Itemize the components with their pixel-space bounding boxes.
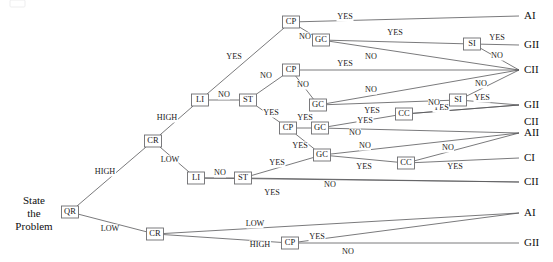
tree-node-cr[interactable]: CR: [145, 135, 162, 147]
tree-node-gc[interactable]: GC: [314, 149, 331, 161]
edge-label: HIGH: [157, 113, 178, 122]
edge-label: NO: [365, 85, 377, 94]
edge-label: YES: [447, 162, 463, 171]
node-label: ST: [243, 94, 254, 104]
node-label: SI: [468, 38, 476, 48]
outcome-label-gii: GII: [524, 236, 540, 248]
edge-label: NO: [365, 52, 377, 61]
node-label: LI: [192, 172, 200, 182]
node-label: GC: [312, 99, 324, 109]
edge-label: NO: [475, 79, 487, 88]
node-label: CP: [283, 122, 294, 132]
tree-node-cp[interactable]: CP: [280, 122, 297, 134]
edge-label: NO: [428, 98, 440, 107]
node-label: SI: [454, 94, 462, 104]
edge-label: YES: [297, 113, 313, 122]
edge-label: NO: [442, 143, 454, 152]
edge-label: YES: [309, 232, 325, 241]
tree-node-li[interactable]: LI: [188, 172, 205, 184]
edge-label: YES: [269, 158, 285, 167]
edge-label: YES: [474, 93, 490, 102]
tree-node-qr[interactable]: QR: [62, 206, 79, 218]
edge-label: YES: [337, 12, 353, 21]
node-label: CC: [398, 108, 410, 118]
tree-node-si[interactable]: SI: [450, 94, 467, 106]
edge-label: YES: [357, 116, 373, 125]
tree-node-st[interactable]: ST: [235, 172, 252, 184]
edge-label: YES: [226, 52, 242, 61]
tree-node-cc[interactable]: CC: [396, 108, 413, 120]
edge-label: YES: [264, 188, 280, 197]
root-label-line-1: State: [23, 194, 45, 206]
edge-label: YES: [489, 33, 505, 42]
outcome-label-ci: CI: [524, 151, 535, 163]
edge-label: LOW: [246, 219, 265, 228]
outcome-label-cii: CII: [524, 63, 539, 75]
tree-node-cp[interactable]: CP: [283, 16, 300, 28]
decision-tree-page: HIGHLOWHIGHLOWNOYESNOYESYESNOYESNOYESNOY…: [0, 0, 553, 262]
outcome-label-cii: CII: [524, 175, 539, 187]
node-label: GC: [315, 34, 327, 44]
edge-label: NO: [491, 51, 503, 60]
edge-label: YES: [387, 28, 403, 37]
tree-node-gc[interactable]: GC: [310, 99, 327, 111]
outcome-label-gii: GII: [524, 38, 540, 50]
node-label: CP: [285, 237, 296, 247]
edge-label: NO: [324, 180, 336, 189]
node-label: CC: [400, 157, 412, 167]
decision-tree-svg: HIGHLOWHIGHLOWNOYESNOYESYESNOYESNOYESNOY…: [0, 0, 553, 262]
outcome-label-ai: AI: [524, 9, 536, 21]
node-label: ST: [238, 172, 249, 182]
edge-label: YES: [356, 162, 372, 171]
tree-node-cc[interactable]: CC: [398, 157, 415, 169]
tree-node-st[interactable]: ST: [240, 94, 257, 106]
node-label: CP: [286, 16, 297, 26]
tree-node-gc[interactable]: GC: [313, 34, 330, 46]
edge-label: NO: [299, 32, 311, 41]
tree-node-gc[interactable]: GC: [312, 122, 329, 134]
edge-label: HIGH: [250, 240, 271, 249]
node-label: GC: [316, 149, 328, 159]
node-label: CP: [286, 64, 297, 74]
edge-label: YES: [337, 59, 353, 68]
node-label: QR: [64, 206, 76, 216]
node-label: CR: [149, 228, 161, 238]
root-label-line-3: Problem: [15, 220, 53, 232]
tree-node-cr[interactable]: CR: [147, 228, 164, 240]
outcome-label-ai: AI: [524, 206, 536, 218]
outcome-label-gii: GII: [524, 98, 540, 110]
root-label-line-2: the: [27, 207, 41, 219]
edge-label: NO: [218, 90, 230, 99]
tree-node-si[interactable]: SI: [464, 38, 481, 50]
edge-label: LOW: [101, 224, 120, 233]
tree-node-cp[interactable]: CP: [283, 64, 300, 76]
edge-label: NO: [359, 141, 371, 150]
tree-node-cp[interactable]: CP: [282, 237, 299, 249]
edge-label: YES: [292, 141, 308, 150]
node-label: LI: [196, 94, 204, 104]
node-label: CR: [147, 135, 159, 145]
edge-label: NO: [214, 168, 226, 177]
tree-node-li[interactable]: LI: [192, 94, 209, 106]
outcome-label-aii: AII: [524, 126, 540, 138]
edge-label: NO: [260, 71, 272, 80]
edge-label: LOW: [161, 155, 180, 164]
edge-label: NO: [342, 247, 354, 256]
edge-label: NO: [297, 80, 309, 89]
edge-label: YES: [263, 108, 279, 117]
node-label: GC: [314, 122, 326, 132]
edge-label: NO: [349, 128, 361, 137]
edge-label: HIGH: [95, 167, 116, 176]
edge-label: YES: [364, 106, 380, 115]
